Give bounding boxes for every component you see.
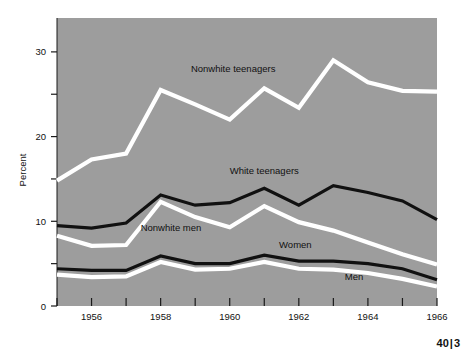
unemployment-rate-line-chart: 0102030 195619581960196219641966 Percent… <box>0 0 466 355</box>
y-axis-title: Percent <box>17 153 28 186</box>
y-tick-label: 20 <box>35 131 46 142</box>
x-tick-label: 1960 <box>219 311 240 322</box>
x-tick-label: 1964 <box>357 311 378 322</box>
page-number-minor: 3 <box>454 337 460 349</box>
series-label-white-teenagers: White teenagers <box>230 165 299 176</box>
series-label-nonwhite-teenagers: Nonwhite teenagers <box>191 63 276 74</box>
series-label-nonwhite-men: Nonwhite men <box>141 222 202 233</box>
x-tick-label: 1962 <box>288 311 309 322</box>
page-number-major: 40 <box>437 337 449 349</box>
y-tick-label: 30 <box>35 46 46 57</box>
y-tick-label: 10 <box>35 216 46 227</box>
plot-area-background <box>57 18 437 306</box>
page-number: 40|3 <box>437 337 460 349</box>
series-label-men: Men <box>345 271 363 282</box>
x-tick-label: 1956 <box>81 311 102 322</box>
x-tick-label: 1958 <box>150 311 171 322</box>
y-tick-label: 0 <box>41 301 46 312</box>
x-tick-label: 1966 <box>426 311 447 322</box>
series-label-women: Women <box>279 239 312 250</box>
